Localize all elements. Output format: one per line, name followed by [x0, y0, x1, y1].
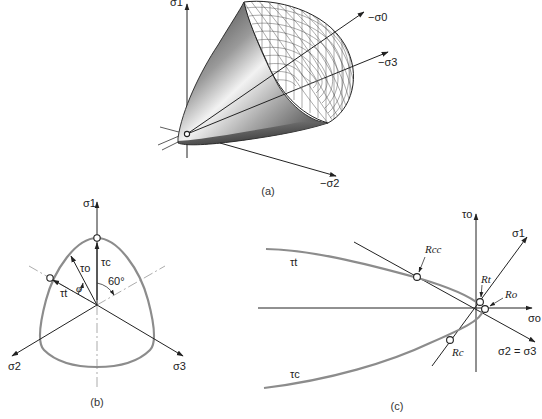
label-tau-t: τt	[60, 287, 67, 299]
label-sigma1-b: σ1	[83, 197, 96, 209]
label-tau-c: τc	[101, 256, 111, 268]
caption-c: (c)	[391, 400, 404, 412]
leader-R-t	[481, 285, 482, 297]
label-sigma2-eq-sigma3: σ2 = σ3	[498, 345, 536, 357]
figure-canvas: σ1	[0, 0, 542, 419]
axis-sigma3-b	[97, 305, 183, 356]
point-tensile-meridian	[47, 275, 53, 281]
label-sigma1-a: σ1	[170, 0, 183, 8]
axis-sigma2-b	[12, 305, 97, 356]
caption-b: (b)	[90, 396, 103, 408]
label-tau-t-curve: τt	[290, 256, 297, 268]
tensile-meridian-curve	[266, 249, 480, 305]
axis-neg-sigma2	[220, 143, 336, 176]
point-R-c	[447, 337, 454, 344]
label-neg-sigma0: −σ0	[368, 11, 387, 23]
point-R-cc	[414, 274, 421, 281]
panel-a: σ1	[158, 0, 397, 197]
label-R-o: Ro	[504, 288, 518, 300]
point-compressive-meridian	[94, 235, 100, 241]
point-R-o	[482, 306, 489, 313]
leader-R-cc	[419, 257, 425, 272]
label-sigma2-b: σ2	[8, 360, 21, 372]
label-sigma-o: σo	[528, 312, 541, 324]
label-tau-c-curve: τc	[290, 368, 300, 380]
panel-c: σo τo σ1 σ2 = σ3 τt τc Rcc Rt Ro Rc (c)	[258, 208, 541, 412]
panel-b: σ1 σ2 σ3 τc τo τt φ 60° (b)	[8, 197, 186, 408]
apex-point	[184, 131, 189, 136]
label-neg-sigma2: −σ2	[320, 177, 339, 189]
label-phi: φ	[76, 282, 82, 294]
leader-R-o	[490, 298, 503, 306]
label-neg-sigma3: −σ3	[378, 56, 397, 68]
label-tau-o: τo	[80, 262, 90, 274]
caption-a: (a)	[261, 185, 274, 197]
label-sigma3-b: σ3	[173, 360, 186, 372]
label-R-cc: Rcc	[424, 243, 442, 255]
point-R-t	[477, 299, 484, 306]
label-R-t: Rt	[480, 273, 492, 285]
label-tau-o-axis: τo	[462, 208, 472, 220]
label-sigma1-c: σ1	[512, 227, 525, 239]
label-R-c: Rc	[451, 346, 464, 358]
label-60-degrees: 60°	[108, 275, 125, 287]
